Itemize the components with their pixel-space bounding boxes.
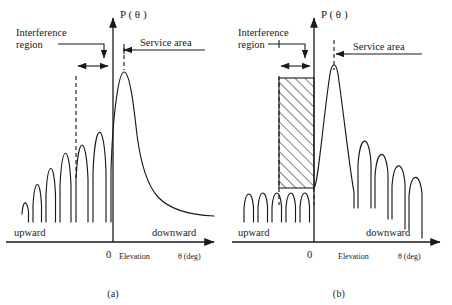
service-area-label-a: Service area (140, 37, 192, 48)
x-axis-left-label-a: upward (14, 227, 46, 238)
interference-region-label-line2-a: region (16, 39, 44, 50)
x-axis-right-label-a: downward (152, 227, 197, 238)
service-area-label-b: Service area (353, 41, 405, 52)
interference-region-label-line1-b: Interference (238, 27, 289, 38)
interference-leader-a (58, 44, 104, 58)
interference-region-label-line2-b: region (238, 39, 266, 50)
main-beam-and-downward-sidelobes-b (314, 65, 422, 238)
interference-region-hatch-b (279, 78, 314, 188)
upward-sidelobes-b (244, 193, 310, 222)
origin-label-a: 0 (106, 249, 111, 260)
x-axis-unit-label-b: θ (deg) (398, 252, 421, 261)
pattern-curve-a (22, 72, 214, 222)
interference-leader-b (268, 44, 305, 58)
interference-region-label-line1-a: Interference (16, 27, 67, 38)
elevation-note-a: Elevation (119, 252, 150, 261)
x-axis-right-label-b: downward (366, 227, 411, 238)
panel-a: P ( θ ) Interference region Service area… (0, 0, 226, 305)
x-axis-left-label-b: upward (238, 227, 270, 238)
elevation-note-b: Elevation (338, 252, 369, 261)
panel-caption-a: (a) (0, 288, 226, 299)
y-axis-label-a: P ( θ ) (120, 8, 147, 21)
origin-label-b: 0 (307, 249, 312, 260)
x-axis-unit-label-a: θ (deg) (178, 252, 201, 261)
figure-antenna-elevation-patterns: P ( θ ) Interference region Service area… (0, 0, 452, 305)
panel-b: P ( θ ) Interference region Service area (226, 0, 452, 305)
y-axis-label-b: P ( θ ) (321, 8, 348, 21)
panel-caption-b: (b) (226, 288, 452, 299)
